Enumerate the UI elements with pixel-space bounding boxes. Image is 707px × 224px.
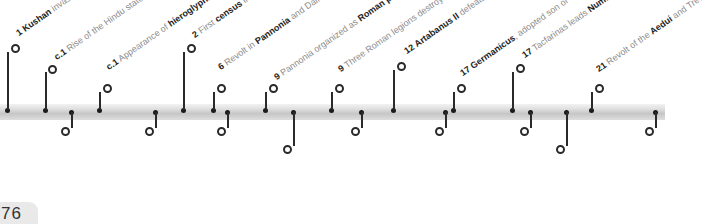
marker-stem bbox=[566, 112, 568, 146]
marker-ring-icon bbox=[556, 145, 565, 154]
marker-ring-icon bbox=[435, 127, 444, 136]
marker-ring-icon bbox=[457, 84, 466, 93]
marker-stem bbox=[453, 92, 455, 110]
marker-stem bbox=[155, 112, 157, 128]
marker-stem bbox=[71, 112, 73, 128]
marker-stem bbox=[265, 92, 267, 110]
marker-ring-icon bbox=[217, 127, 226, 136]
marker-stem bbox=[393, 70, 395, 110]
marker-stem bbox=[293, 112, 295, 146]
marker-stem bbox=[7, 52, 9, 110]
marker-ring-icon bbox=[520, 127, 529, 136]
marker-stem bbox=[213, 92, 215, 110]
marker-stem bbox=[361, 112, 363, 128]
marker-stem bbox=[227, 112, 229, 128]
marker-stem bbox=[183, 52, 185, 110]
page-number-tab: 76 bbox=[0, 202, 38, 224]
marker-ring-icon bbox=[595, 84, 604, 93]
marker-ring-icon bbox=[11, 44, 20, 53]
marker-ring-icon bbox=[269, 84, 278, 93]
marker-ring-icon bbox=[187, 44, 196, 53]
marker-ring-icon bbox=[48, 65, 57, 74]
marker-ring-icon bbox=[397, 62, 406, 71]
marker-stem bbox=[512, 72, 514, 110]
marker-ring-icon bbox=[145, 127, 154, 136]
marker-stem bbox=[45, 72, 47, 110]
marker-stem bbox=[655, 112, 657, 128]
marker-stem bbox=[445, 112, 447, 128]
page-number: 76 bbox=[1, 204, 22, 224]
marker-ring-icon bbox=[103, 84, 112, 93]
marker-stem bbox=[530, 112, 532, 128]
marker-ring-icon bbox=[516, 64, 525, 73]
marker-stem bbox=[331, 92, 333, 110]
marker-stem bbox=[99, 92, 101, 110]
event-label: 17 Germanicus, adopted son of Tiberius, … bbox=[458, 0, 658, 78]
marker-ring-icon bbox=[283, 145, 292, 154]
marker-ring-icon bbox=[217, 84, 226, 93]
marker-ring-icon bbox=[351, 127, 360, 136]
marker-ring-icon bbox=[61, 127, 70, 136]
marker-stem bbox=[591, 92, 593, 110]
event-label: 21 Revolt of the Aedui and Treveri in Ga… bbox=[594, 0, 707, 74]
marker-ring-icon bbox=[335, 84, 344, 93]
marker-ring-icon bbox=[645, 127, 654, 136]
